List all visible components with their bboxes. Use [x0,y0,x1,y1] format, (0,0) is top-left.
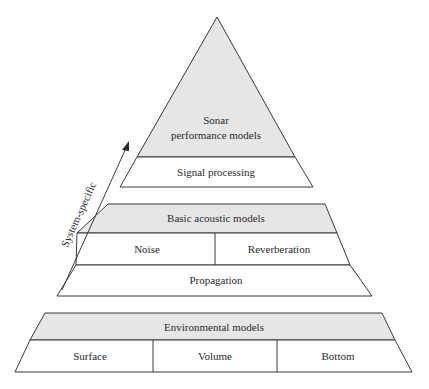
tier-basic-acoustic: Basic acoustic models Noise Reverberatio… [57,204,372,296]
arrow-head-icon [122,141,129,151]
bottom-label: Bottom [321,350,354,362]
surface-label: Surface [73,350,107,362]
basic-acoustic-title: Basic acoustic models [167,212,265,224]
environmental-title: Environmental models [164,321,264,333]
pyramid-diagram: Sonar performance models Signal processi… [0,0,429,389]
volume-label: Volume [198,350,232,362]
sonar-title-line-1: Sonar [203,114,229,126]
tier-environmental: Environmental models Surface Volume Bott… [15,313,412,372]
signal-processing-label: Signal processing [177,166,255,178]
noise-label: Noise [134,243,160,255]
sonar-title-line-2: performance models [171,129,261,141]
reverberation-label: Reverberation [248,243,311,255]
tier-sonar-performance: Sonar performance models Signal processi… [120,17,313,187]
propagation-label: Propagation [189,274,243,286]
